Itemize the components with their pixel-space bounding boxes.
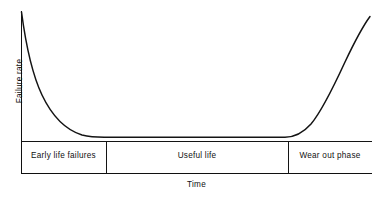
plot-area <box>0 0 380 197</box>
failure-rate-curve <box>22 12 371 137</box>
y-axis-title: Failure rate <box>13 0 27 162</box>
bathtub-curve-figure: Failure rate Early life failures Useful … <box>0 0 380 197</box>
phase-label-wear-out-phase: Wear out phase <box>288 152 372 160</box>
phase-label-useful-life: Useful life <box>106 152 288 160</box>
phase-label-early-life-failures: Early life failures <box>21 152 106 160</box>
x-axis-title: Time <box>21 181 372 189</box>
